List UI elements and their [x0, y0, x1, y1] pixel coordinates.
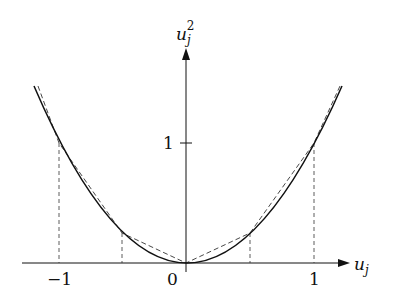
piecewise-linear-curve: [38, 86, 340, 263]
y-axis-label: uj2: [176, 19, 194, 47]
parabola-curve: [34, 86, 342, 263]
x-axis-arrow-icon: [338, 259, 350, 267]
tick-label-y-1: 1: [163, 133, 174, 153]
tick-label-x-neg1: −1: [47, 269, 72, 289]
y-axis-arrow-icon: [182, 48, 190, 60]
tick-label-x-1: 1: [309, 269, 320, 289]
parabola-diagram: −1 0 1 1 uj uj2: [0, 0, 397, 297]
tick-label-x-0: 0: [167, 269, 178, 289]
x-axis-label: uj: [354, 254, 369, 277]
